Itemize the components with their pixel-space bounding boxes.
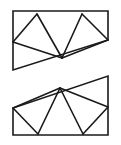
- figure-container: [0, 0, 121, 145]
- upper-quadrilateral-outline: [13, 11, 108, 70]
- geometric-figure: [0, 0, 121, 145]
- lower-quadrilateral: [13, 76, 108, 135]
- lower-quadrilateral-outline: [13, 76, 108, 135]
- upper-quadrilateral: [13, 11, 108, 70]
